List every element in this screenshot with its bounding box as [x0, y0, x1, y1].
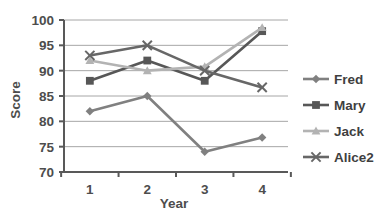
data-point-diamond-marker	[258, 133, 266, 141]
x-tick-label: 3	[201, 182, 209, 197]
legend-item-mary[interactable]: Mary	[303, 98, 366, 113]
y-tick-label: 100	[31, 13, 54, 28]
y-tick-labels: 707580859095100	[31, 13, 54, 180]
legend-item-label: Alice2	[334, 150, 374, 165]
legend-item-label: Fred	[334, 72, 363, 87]
legend-item-jack[interactable]: Jack	[303, 124, 365, 139]
series-mary	[86, 27, 266, 84]
y-axis-title: Score	[8, 81, 23, 119]
x-tick-labels: 1234	[86, 182, 266, 197]
plot-area: 707580859095100 1234 Score Year FredMary…	[0, 0, 388, 216]
legend-item-fred[interactable]: Fred	[303, 72, 363, 87]
data-point-square-marker	[143, 57, 151, 65]
series-line	[90, 96, 262, 152]
x-axis-title: Year	[160, 196, 189, 211]
data-point-square-marker	[86, 77, 94, 85]
series-line	[90, 31, 262, 81]
data-point-diamond-marker	[312, 75, 320, 83]
data-series	[85, 23, 267, 156]
x-tick-label: 1	[86, 182, 94, 197]
y-tick-label: 70	[39, 165, 54, 180]
y-tick-label: 75	[39, 140, 55, 155]
data-point-square-marker	[201, 77, 209, 85]
y-tick-label: 80	[39, 114, 54, 129]
legend-item-label: Mary	[334, 98, 366, 113]
data-point-triangle-marker	[258, 23, 267, 31]
series-line	[90, 28, 262, 71]
y-tick-label: 85	[39, 89, 55, 104]
y-tick-label: 95	[39, 38, 55, 53]
data-point-square-marker	[312, 101, 320, 109]
line-chart: 707580859095100 1234 Score Year FredMary…	[0, 0, 388, 216]
legend: FredMaryJackAlice2	[303, 72, 374, 165]
series-alice2	[85, 41, 267, 92]
data-point-diamond-marker	[86, 107, 94, 115]
series-jack	[85, 23, 266, 74]
gridlines	[64, 20, 288, 172]
legend-item-label: Jack	[334, 124, 365, 139]
x-tick-label: 4	[258, 182, 266, 197]
y-tick-label: 90	[39, 64, 54, 79]
legend-item-alice2[interactable]: Alice2	[303, 150, 374, 165]
chart-canvas: 707580859095100 1234 Score Year FredMary…	[0, 0, 388, 216]
x-tick-label: 2	[144, 182, 152, 197]
